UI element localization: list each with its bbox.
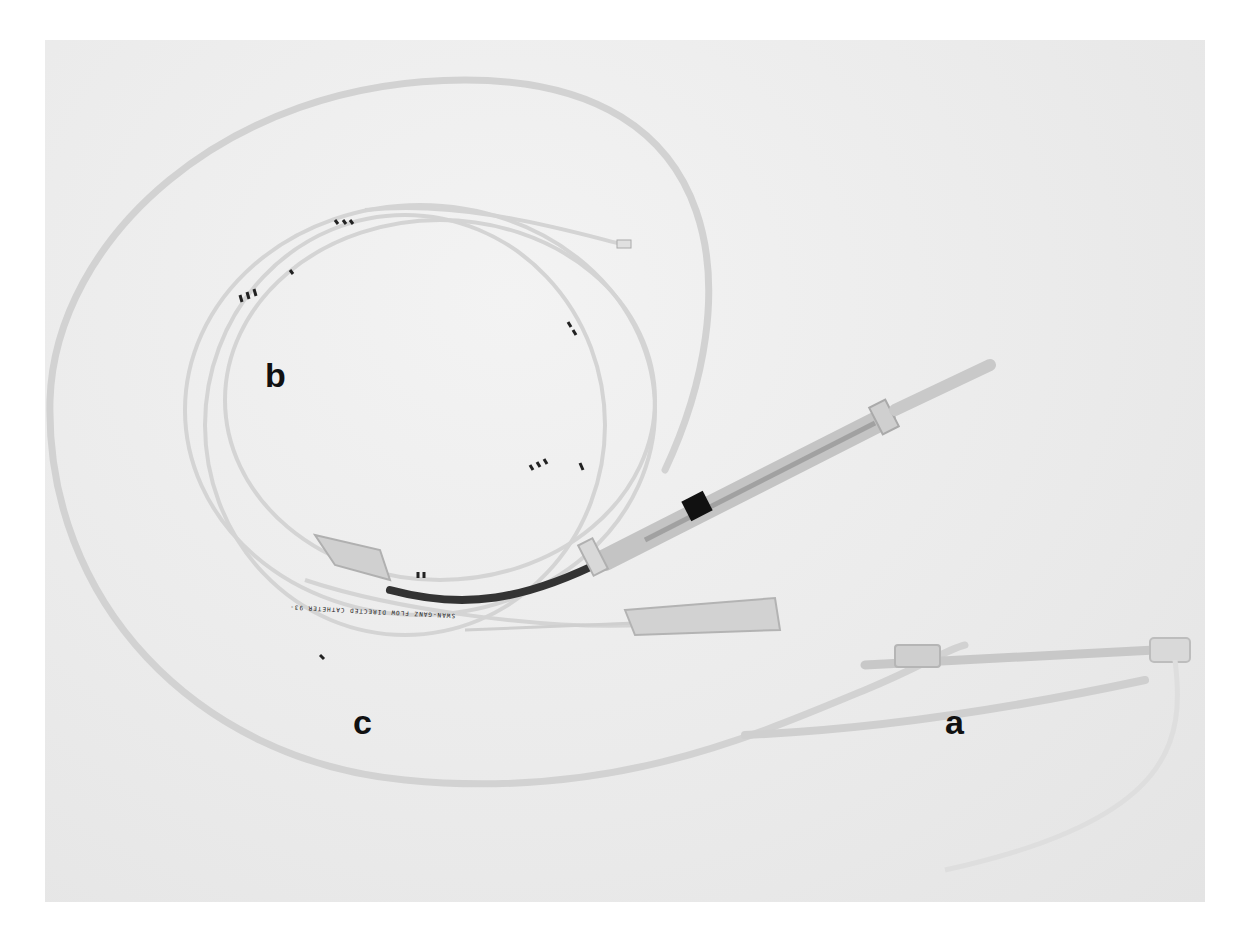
catheter-a [745,638,1190,870]
catheter-photo: b c a SWAN-GANZ FLOW DIRECTED CATHETER 9… [45,40,1205,902]
catheter-b [185,205,780,659]
label-b: b [265,358,286,392]
label-a: a [945,705,964,739]
catheter-drawing [45,40,1205,902]
label-c: c [353,705,372,739]
